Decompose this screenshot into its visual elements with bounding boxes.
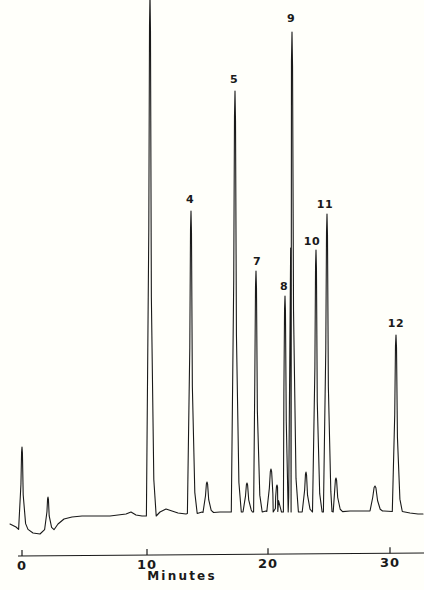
trace-path-group xyxy=(10,0,423,534)
peak-label-9: 9 xyxy=(287,13,295,24)
peak-label-7: 7 xyxy=(253,256,261,267)
peak-label-10: 10 xyxy=(304,236,320,247)
peak-label-8: 8 xyxy=(280,281,288,292)
peak-label-12: 12 xyxy=(388,318,404,329)
x-axis-tick-label-0: 0 xyxy=(17,559,27,572)
peak-label-4: 4 xyxy=(186,194,194,205)
x-axis-tick-label-30: 30 xyxy=(380,556,400,569)
x-axis-line xyxy=(18,553,424,556)
chromatogram-figure: 45789101112 0102030 Minutes xyxy=(0,0,424,590)
chromatogram-trace xyxy=(10,0,423,534)
x-axis-group xyxy=(18,547,424,556)
peak-label-11: 11 xyxy=(317,199,333,210)
x-axis-title: Minutes xyxy=(147,570,217,582)
peak-label-5: 5 xyxy=(230,74,238,85)
x-axis-tick-label-20: 20 xyxy=(258,557,278,570)
chromatogram-plot xyxy=(0,0,424,590)
